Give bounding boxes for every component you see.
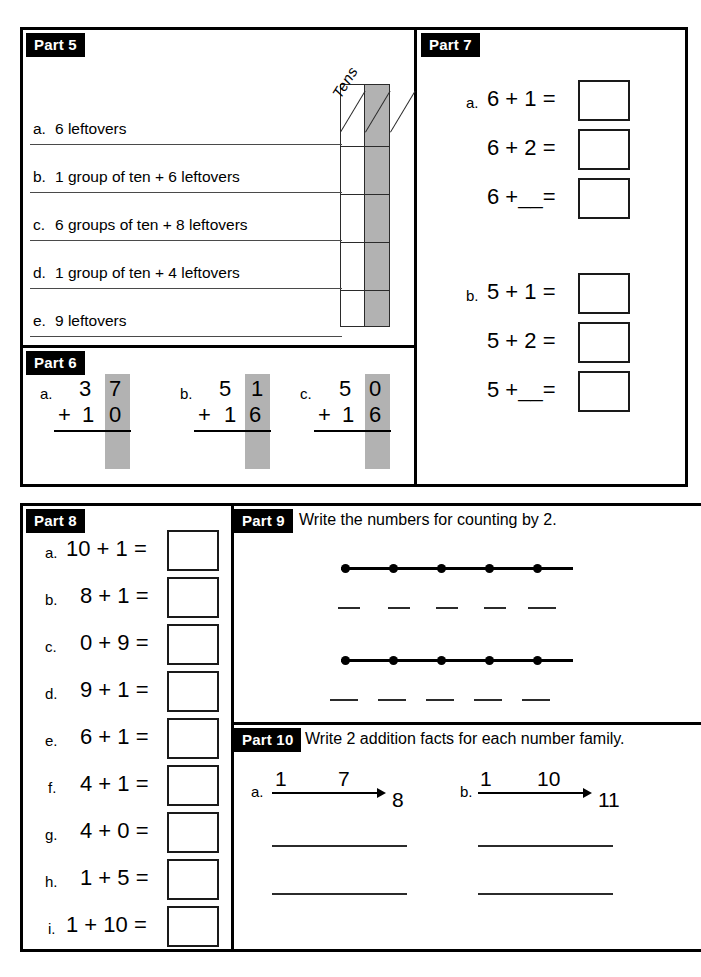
part7-equation-b3: 5 +__= [487,379,556,401]
part5-tag: Part 5 [26,33,85,57]
part5-write-line-a[interactable] [30,144,342,145]
tens-row-divider-1 [340,146,390,147]
part9-line1-blank-1[interactable] [338,607,360,609]
part8-answer-box-b[interactable] [167,577,219,618]
part5-write-line-d[interactable] [30,288,342,289]
part9-line2-dot-4 [485,656,494,665]
part5-row-a: a.6 leftovers [33,120,127,138]
part6-plus-sign: + [318,404,331,426]
part8-equation-c: 0 + 9 = [80,632,149,654]
part5-write-line-e[interactable] [30,336,342,337]
part6-bottom-tens: 1 [224,404,236,426]
part9-line2-dot-5 [533,656,542,665]
part9-line2-blank-1[interactable] [330,699,358,701]
tens-row-divider-2 [340,194,390,195]
part10-family-a-arrowhead [377,788,386,798]
bottom-section-top-border [20,503,701,506]
part6-bottom-ones: 0 [109,404,121,426]
part9-line2-blank-2[interactable] [378,699,406,701]
part5-row-c: c.6 groups of ten + 8 leftovers [33,216,248,234]
part6-answer-bar [194,430,271,432]
part7-answer-box-a2[interactable] [578,129,630,170]
part5-item-letter: b. [33,168,55,186]
part8-item-letter-c: c. [45,639,57,654]
part6-top-tens: 5 [339,378,351,400]
part6-top-ones: 1 [251,378,263,400]
tens-row-divider-3 [340,242,390,243]
part8-item-letter-i: i. [48,921,56,936]
bottom-section-bottom-border [20,949,701,952]
part6-bottom-ones: 6 [369,404,381,426]
part9-instruction: Write the numbers for counting by 2. [299,511,557,529]
top-section-right-border [685,27,688,487]
part6-top-ones: 7 [109,378,121,400]
part6-bottom-ones: 6 [249,404,261,426]
part9-line2-dot-2 [389,656,398,665]
part8-answer-box-f[interactable] [167,765,219,806]
top-section-bottom-border [20,484,688,487]
part8-equation-e: 6 + 1 = [80,726,149,748]
part5-row-b: b.1 group of ten + 6 leftovers [33,168,240,186]
part8-item-letter-d: d. [45,686,58,701]
part8-answer-box-e[interactable] [167,718,219,759]
part5-item-letter: e. [33,312,55,330]
part8-answer-box-d[interactable] [167,671,219,712]
part7-answer-box-a3[interactable] [578,178,630,219]
part8-item-letter-a: a. [45,545,58,560]
part8-answer-box-g[interactable] [167,812,219,853]
part5-row-e: e.9 leftovers [33,312,127,330]
part7-answer-box-b2[interactable] [578,322,630,363]
part9-line2-dot-3 [437,656,446,665]
part9-line2-blank-3[interactable] [426,699,454,701]
part7-answer-box-b1[interactable] [578,273,630,314]
part8-tag: Part 8 [26,509,85,533]
part10-instruction: Write 2 addition facts for each number f… [305,730,625,748]
part6-answer-bar [314,430,391,432]
part6-bottom-tens: 1 [82,404,94,426]
part7-answer-box-a1[interactable] [578,80,630,121]
part6-plus-sign: + [58,404,71,426]
part10-family-b-answer-line-2[interactable] [478,893,613,895]
part10-family-b-answer-line-1[interactable] [478,845,613,847]
part5-item-text: 6 leftovers [55,120,127,137]
part5-part7-divider [414,27,417,487]
part9-line1-blank-4[interactable] [484,607,506,609]
part9-line2-blank-5[interactable] [522,699,550,701]
part5-item-letter: d. [33,264,55,282]
part10-family-b-arrowhead [583,788,592,798]
part9-line2-blank-4[interactable] [474,699,502,701]
part9-line1-blank-2[interactable] [388,607,410,609]
part5-write-line-c[interactable] [30,240,342,241]
part7-group-a-letter: a. [466,95,479,110]
part8-answer-box-a[interactable] [167,530,219,571]
part5-item-text: 1 group of ten + 6 leftovers [55,168,240,185]
part9-line1-blank-3[interactable] [436,607,458,609]
part8-item-letter-b: b. [45,592,58,607]
worksheet-page: Part 5 Tens a.6 leftovers b.1 group of t… [0,0,701,977]
part5-item-text: 1 group of ten + 4 leftovers [55,264,240,281]
part7-answer-box-b3[interactable] [578,371,630,412]
part8-answer-box-c[interactable] [167,624,219,665]
part8-answer-box-i[interactable] [167,906,219,947]
part9-line1-blank-5[interactable] [528,607,556,609]
part8-equation-d: 9 + 1 = [80,679,149,701]
part5-item-letter: a. [33,120,55,138]
part10-family-b-total: 11 [598,789,620,810]
part8-item-letter-h: h. [45,874,58,889]
part5-write-line-b[interactable] [30,192,342,193]
part8-equation-f: 4 + 1 = [80,773,149,795]
part10-family-a-answer-line-2[interactable] [272,893,407,895]
part9-line1-dot-2 [389,564,398,573]
part5-row-d: d.1 group of ten + 4 leftovers [33,264,240,282]
part8-answer-box-h[interactable] [167,859,219,900]
part9-line2-dot-1 [341,656,350,665]
part6-top-tens: 3 [79,378,91,400]
top-section-left-border [20,27,23,487]
part6-problem-letter: c. [300,385,312,402]
part5-item-letter: c. [33,216,55,234]
part10-family-a-answer-line-1[interactable] [272,845,407,847]
part9-part10-divider [231,722,701,725]
part6-top-ones: 0 [369,378,381,400]
part6-problem-letter: b. [180,385,193,402]
part6-tag: Part 6 [26,351,85,375]
